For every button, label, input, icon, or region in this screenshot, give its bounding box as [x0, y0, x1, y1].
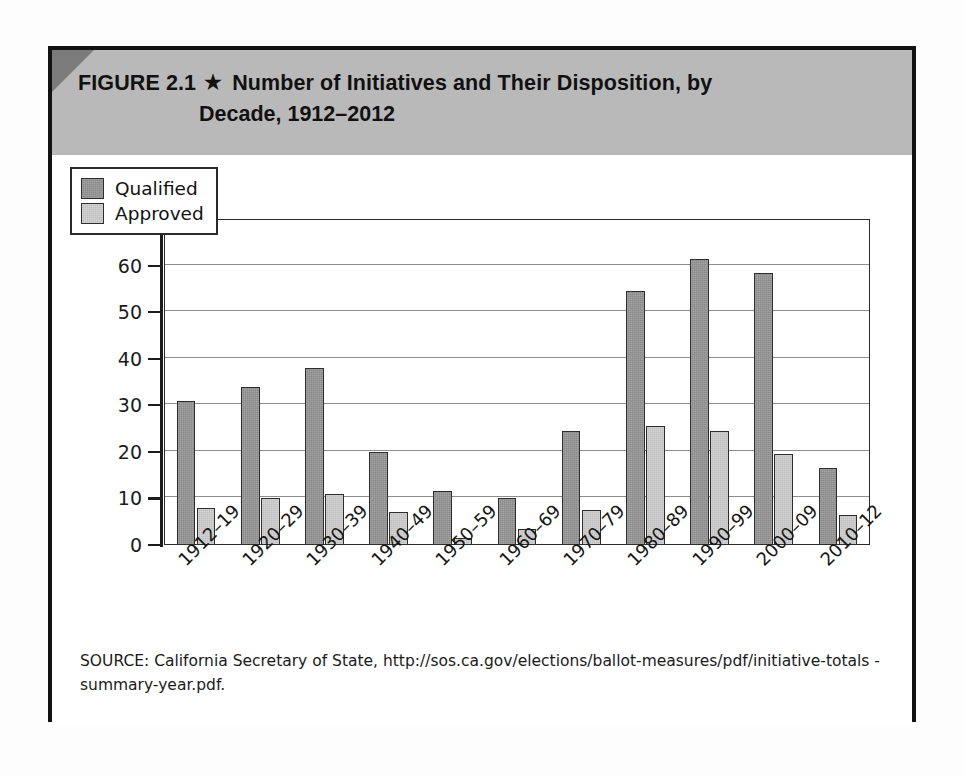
y-axis-labels: 010203040506070 [76, 155, 142, 726]
legend-label-qualified: Qualified [115, 178, 198, 199]
figure-frame: FIGURE 2.1★Number of Initiatives and The… [48, 46, 916, 722]
y-axis-tick-label: 20 [86, 441, 142, 463]
bar-qualified-1980-89 [626, 291, 645, 545]
figure-title-line-2: Decade, 1912–2012 [199, 102, 395, 127]
figure-page: { "figure": { "number_label": "FIGURE 2.… [0, 0, 964, 776]
legend-item-qualified[interactable]: Qualified [81, 176, 204, 201]
figure-title-line-1: Number of Initiatives and Their Disposit… [232, 71, 712, 95]
bar-qualified-2010-12 [819, 468, 838, 545]
figure-number-label: FIGURE 2.1 [78, 71, 196, 95]
bar-qualified-1920-29 [241, 387, 260, 545]
y-axis-tick-label: 50 [86, 301, 142, 323]
legend-label-approved: Approved [115, 203, 204, 224]
x-axis-labels: 1912–191920–291930–391940–491950–591960–… [164, 547, 870, 657]
y-axis-tick-label: 10 [86, 487, 142, 509]
bar-qualified-1970-79 [562, 431, 581, 545]
star-icon: ★ [204, 68, 222, 97]
bar-qualified-1930-39 [305, 368, 324, 545]
y-axis-tick-label: 40 [86, 348, 142, 370]
legend-swatch-qualified-icon [81, 178, 104, 199]
y-axis-tick-label: 30 [86, 394, 142, 416]
legend-item-approved[interactable]: Approved [81, 201, 204, 226]
source-note: SOURCE: California Secretary of State, h… [80, 649, 888, 697]
bar-qualified-2000-09 [754, 273, 773, 545]
y-axis-tick-label: 0 [86, 534, 142, 556]
bars-layer [164, 219, 870, 545]
legend-swatch-approved-icon [81, 203, 104, 224]
figure-header-band: FIGURE 2.1★Number of Initiatives and The… [52, 50, 912, 155]
bar-qualified-1940-49 [369, 452, 388, 545]
bar-qualified-1990-99 [690, 259, 709, 545]
figure-title: FIGURE 2.1★Number of Initiatives and The… [78, 68, 892, 99]
chart-legend[interactable]: QualifiedApproved [70, 167, 218, 235]
chart-region: 010203040506070 QualifiedApproved 1912–1… [52, 155, 912, 726]
bar-qualified-1912-19 [177, 401, 196, 545]
y-axis-tick-label: 60 [86, 255, 142, 277]
y-axis-spine [160, 217, 163, 547]
